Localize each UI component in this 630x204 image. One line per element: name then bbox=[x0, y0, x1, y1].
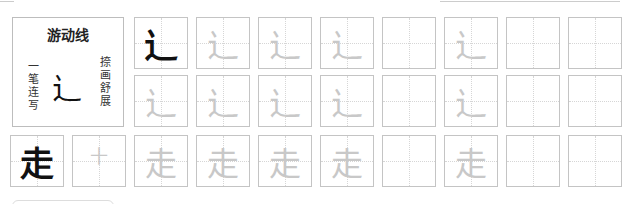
cell-glyph bbox=[569, 18, 621, 68]
bottom-edge-decoration bbox=[12, 200, 114, 204]
cell-glyph: 辶 bbox=[259, 76, 311, 126]
practice-cell[interactable]: 辶 bbox=[444, 17, 498, 69]
cell-glyph: 辶 bbox=[197, 18, 249, 68]
cell-glyph bbox=[383, 18, 435, 68]
cell-glyph: 走 bbox=[259, 136, 311, 186]
cell-glyph bbox=[569, 76, 621, 126]
cell-glyph: 辶 bbox=[135, 18, 187, 68]
cell-glyph: 走 bbox=[321, 136, 373, 186]
practice-cell[interactable] bbox=[382, 135, 436, 187]
practice-cell[interactable] bbox=[568, 135, 622, 187]
cell-glyph bbox=[507, 136, 559, 186]
caption-char: 展 bbox=[99, 95, 111, 108]
caption-char: 捺 bbox=[99, 56, 111, 69]
cell-glyph bbox=[507, 76, 559, 126]
practice-cell[interactable]: 辶 bbox=[134, 75, 188, 127]
practice-cell[interactable] bbox=[382, 17, 436, 69]
cell-glyph: 走 bbox=[11, 136, 63, 186]
stroke-intro-box: 游动线 一 笔 连 写 辶 捺 画 舒 展 bbox=[12, 17, 124, 127]
caption-char: 连 bbox=[27, 86, 39, 99]
cell-glyph: 走 bbox=[197, 136, 249, 186]
stroke-title: 游动线 bbox=[13, 24, 123, 44]
cell-glyph: 走 bbox=[135, 136, 187, 186]
practice-cell[interactable] bbox=[506, 135, 560, 187]
example-stroke-glyph: 辶 bbox=[47, 64, 87, 108]
practice-cell[interactable]: 走 bbox=[10, 135, 64, 187]
cell-glyph: 辶 bbox=[321, 76, 373, 126]
practice-cell[interactable]: 辶 bbox=[196, 75, 250, 127]
practice-cell[interactable]: 辶 bbox=[320, 17, 374, 69]
practice-cell[interactable]: 辶 bbox=[444, 75, 498, 127]
practice-cell[interactable]: 辶 bbox=[134, 17, 188, 69]
practice-cell[interactable]: 辶 bbox=[258, 75, 312, 127]
practice-cell[interactable]: 辶 bbox=[258, 17, 312, 69]
top-edge-right bbox=[440, 1, 620, 2]
practice-cell[interactable] bbox=[506, 75, 560, 127]
caption-char: 笔 bbox=[27, 73, 39, 86]
right-caption: 捺 画 舒 展 bbox=[99, 56, 111, 108]
cell-glyph: 辶 bbox=[135, 76, 187, 126]
practice-cell[interactable] bbox=[568, 75, 622, 127]
practice-cell[interactable]: 走 bbox=[196, 135, 250, 187]
cell-glyph bbox=[383, 76, 435, 126]
cell-glyph: 十 bbox=[73, 136, 125, 186]
practice-cell[interactable]: 走 bbox=[258, 135, 312, 187]
cell-glyph: 走 bbox=[445, 136, 497, 186]
practice-cell[interactable]: 辶 bbox=[320, 75, 374, 127]
practice-cell[interactable]: 走 bbox=[134, 135, 188, 187]
caption-char: 画 bbox=[99, 69, 111, 82]
cell-glyph bbox=[507, 18, 559, 68]
practice-cell[interactable]: 辶 bbox=[196, 17, 250, 69]
caption-char: 舒 bbox=[99, 82, 111, 95]
cell-glyph: 辶 bbox=[445, 18, 497, 68]
practice-cell[interactable]: 走 bbox=[444, 135, 498, 187]
practice-cell[interactable]: 十 bbox=[72, 135, 126, 187]
practice-cell[interactable]: 走 bbox=[320, 135, 374, 187]
caption-char: 写 bbox=[27, 99, 39, 112]
cell-glyph: 辶 bbox=[321, 18, 373, 68]
caption-char: 一 bbox=[27, 60, 39, 73]
cell-glyph: 辶 bbox=[259, 18, 311, 68]
cell-glyph: 辶 bbox=[445, 76, 497, 126]
practice-cell[interactable] bbox=[382, 75, 436, 127]
left-caption: 一 笔 连 写 bbox=[27, 60, 39, 112]
practice-cell[interactable] bbox=[506, 17, 560, 69]
cell-glyph: 辶 bbox=[197, 76, 249, 126]
top-edge-left bbox=[0, 1, 14, 2]
practice-cell[interactable] bbox=[568, 17, 622, 69]
cell-glyph bbox=[569, 136, 621, 186]
cell-glyph bbox=[383, 136, 435, 186]
